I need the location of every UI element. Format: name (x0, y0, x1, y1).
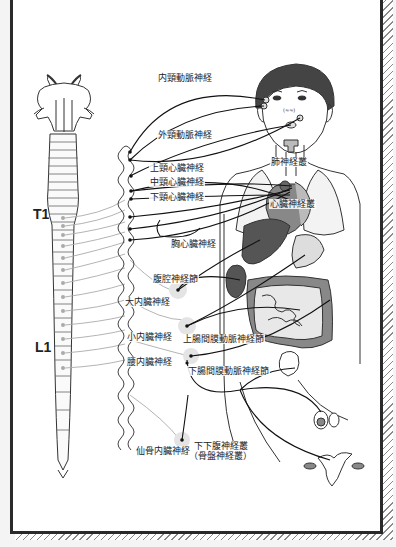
spinal-cord (34, 75, 94, 478)
label-celiac-ganglion: 腹腔神経節 (152, 274, 199, 284)
level-t1: T1 (33, 206, 49, 222)
label-greater-splanchnic-nerve: 大内臓神経 (124, 297, 171, 307)
label-cardiac-plexus: 心臓神経叢 (269, 199, 316, 209)
label-internal-carotid-nerve: 内頸動脈神経 (157, 73, 213, 83)
level-l1: L1 (35, 339, 51, 355)
liver (242, 219, 290, 264)
label-superior-cervical-cardiac-nerve: 上頸心臓神経 (149, 163, 205, 173)
label-pelvic-plexus: （骨盤神経叢） (188, 451, 253, 461)
label-lumbar-splanchnic-nerve: 腰内臓神経 (126, 357, 173, 367)
bladder (279, 351, 299, 376)
label-superior-mesenteric-ganglion: 上腸間膜動脈神経節 (182, 334, 265, 344)
label-inferior-hypogastric-plexus: 下下腹神経叢 (193, 441, 249, 451)
label-thoracic-cardiac-nerve: 胸心臓神経 (170, 239, 217, 249)
label-external-carotid-nerve: 外頸動脈神経 (157, 130, 213, 140)
kidney (226, 265, 246, 298)
label-inferior-mesenteric-ganglion: 下腸間膜動脈神経節 (187, 366, 270, 376)
label-pulmonary-plexus: 肺神経叢 (270, 157, 308, 167)
human-figure: (≈≈) (220, 64, 364, 486)
label-lesser-splanchnic-nerve: 小内臓神経 (126, 332, 173, 342)
label-middle-cervical-cardiac-nerve: 中頸心臓神経 (149, 177, 205, 187)
stomach (292, 235, 324, 268)
label-inferior-cervical-cardiac-nerve: 下頸心臓神経 (149, 192, 205, 202)
svg-text:(≈≈): (≈≈) (283, 107, 295, 113)
label-sacral-splanchnic-nerve: 仙骨内臓神経 (135, 446, 191, 456)
